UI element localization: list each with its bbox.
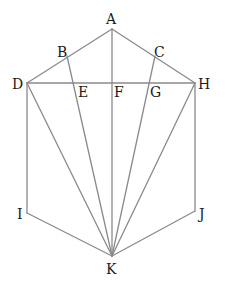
point-label-b: B xyxy=(57,44,67,60)
edges-group xyxy=(27,29,195,256)
point-label-h: H xyxy=(198,76,210,92)
point-label-a: A xyxy=(105,11,117,27)
point-label-c: C xyxy=(154,44,165,60)
point-label-k: K xyxy=(106,261,117,277)
point-label-e: E xyxy=(78,84,88,100)
point-label-d: D xyxy=(12,76,23,92)
point-label-i: I xyxy=(17,206,23,222)
segment-da xyxy=(27,29,112,83)
point-label-f: F xyxy=(114,84,124,100)
point-label-j: J xyxy=(197,206,205,222)
segment-dk xyxy=(27,83,112,256)
segment-bk xyxy=(67,56,112,256)
labels-group: A B C D E F G H I J K xyxy=(12,11,210,277)
segment-jk xyxy=(112,211,195,256)
point-label-g: G xyxy=(150,84,161,100)
segment-hk xyxy=(112,83,195,256)
geometry-diagram: A B C D E F G H I J K xyxy=(0,0,225,283)
segment-ik xyxy=(27,213,112,256)
